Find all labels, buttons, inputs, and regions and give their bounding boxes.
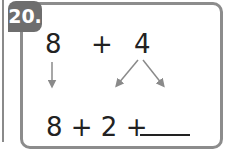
answer-blank[interactable] <box>140 134 190 136</box>
arrow-split-left-icon <box>118 60 138 84</box>
arrow-split-right-icon <box>143 60 162 84</box>
partial-sum-expression: 8 + 2 + <box>46 114 147 140</box>
